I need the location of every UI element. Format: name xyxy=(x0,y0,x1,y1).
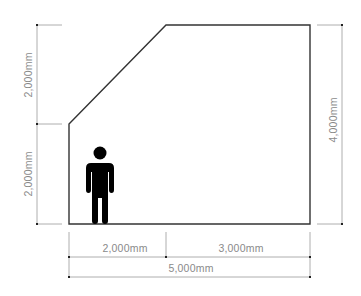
tick-mark xyxy=(341,223,343,225)
left-upper-label: 2,000mm xyxy=(22,52,34,97)
left-lower-label: 2,000mm xyxy=(22,151,34,196)
tick-mark xyxy=(341,24,343,26)
bottom-dimension: 2,000mm 3,000mm 5,000mm xyxy=(68,232,311,278)
tick-mark xyxy=(68,276,70,278)
right-dimension: 4,000mm xyxy=(317,24,343,225)
section-diagram: 2,000mm 2,000mm 4,000mm 2,000mm 3,000mm … xyxy=(0,0,361,296)
bottom-total-label: 5,000mm xyxy=(168,262,213,274)
tick-mark xyxy=(36,223,38,225)
tick-mark xyxy=(68,256,70,258)
bottom-left-label: 2,000mm xyxy=(102,242,147,254)
tick-mark xyxy=(309,256,311,258)
tick-mark xyxy=(165,256,167,258)
tick-mark xyxy=(36,24,38,26)
right-total-label: 4,000mm xyxy=(327,97,339,142)
tick-mark xyxy=(309,276,311,278)
left-dimension: 2,000mm 2,000mm xyxy=(22,24,62,225)
bottom-right-label: 3,000mm xyxy=(218,242,263,254)
tick-mark xyxy=(36,123,38,125)
